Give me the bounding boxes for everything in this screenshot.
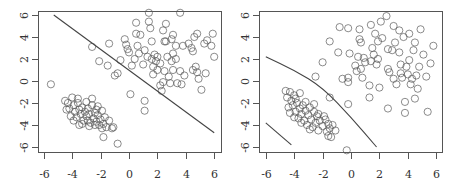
data-point (202, 70, 209, 77)
data-point (393, 81, 400, 88)
data-point (209, 30, 216, 37)
data-point (63, 106, 70, 113)
data-point (177, 9, 184, 16)
data-point (174, 80, 181, 87)
data-point (148, 38, 155, 45)
x-tick-label: -6 (261, 168, 272, 181)
data-point (401, 109, 408, 116)
data-point (359, 74, 366, 81)
decision-boundary (54, 15, 214, 133)
x-tick-label: 0 (348, 168, 355, 181)
right-scatter-plot: -6-4-20246-6-4-20246 (239, 12, 443, 182)
data-point (423, 73, 430, 80)
data-point (366, 82, 373, 89)
y-tick-label: 0 (18, 78, 31, 85)
data-point (315, 127, 322, 134)
data-point (145, 9, 152, 16)
data-point (376, 84, 383, 91)
data-point (198, 86, 205, 93)
data-point (145, 18, 152, 25)
data-point (396, 49, 403, 56)
data-point (172, 42, 179, 49)
data-point (357, 65, 364, 72)
data-point (137, 31, 144, 38)
y-tick-label: -6 (239, 142, 252, 153)
data-point (383, 13, 390, 20)
data-point (345, 79, 352, 86)
data-point (134, 42, 141, 49)
data-point (420, 51, 427, 58)
data-point (356, 26, 363, 33)
data-point (100, 134, 107, 141)
data-point (404, 71, 411, 78)
data-point (336, 24, 343, 31)
data-point (401, 98, 408, 105)
data-point (417, 26, 424, 33)
data-point (140, 61, 147, 68)
data-point (406, 30, 413, 37)
data-point (416, 63, 423, 70)
data-point (208, 42, 215, 49)
data-point (367, 21, 374, 28)
data-point (141, 97, 148, 104)
data-point (411, 95, 418, 102)
data-point (152, 58, 159, 65)
x-tick-label: -2 (96, 168, 107, 181)
y-tick-label: 2 (18, 56, 31, 63)
data-point (169, 31, 176, 38)
data-point (391, 39, 398, 46)
plot-frame (260, 12, 443, 153)
data-point (424, 108, 431, 115)
data-point (128, 62, 135, 69)
data-point (147, 25, 154, 32)
left-scatter-plot: -6-4-20246-6-4-20246 (18, 9, 222, 181)
data-point (427, 60, 434, 67)
y-tick-label: -2 (239, 98, 252, 109)
data-point (411, 39, 418, 46)
x-tick-label: -4 (67, 168, 78, 181)
y-tick-label: -4 (18, 120, 31, 131)
x-tick-label: -6 (39, 168, 50, 181)
data-point (384, 46, 391, 53)
data-point (181, 72, 188, 79)
data-point (76, 121, 83, 128)
data-point (397, 70, 404, 77)
data-point (335, 49, 342, 56)
data-point (162, 20, 169, 27)
data-point (167, 80, 174, 87)
decision-boundary-lower (266, 123, 292, 145)
chart-canvas: -6-4-20246-6-4-20246 -6-4-20246-6-4-2024… (0, 0, 453, 195)
data-point (47, 81, 54, 88)
data-point (396, 27, 403, 34)
data-point (325, 132, 332, 139)
series-cluster-A (47, 81, 121, 148)
y-tick-label: 4 (18, 34, 31, 41)
x-tick-label: 2 (154, 168, 161, 181)
data-point (346, 50, 353, 57)
data-point (211, 53, 218, 60)
x-tick-label: -2 (318, 168, 329, 181)
data-point (289, 102, 296, 109)
data-point (384, 105, 391, 112)
data-point (178, 81, 185, 88)
data-point (319, 59, 326, 66)
x-tick-label: 0 (126, 168, 133, 181)
data-point (326, 38, 333, 45)
data-point (172, 55, 179, 62)
y-tick-label: -6 (18, 142, 31, 153)
data-point (159, 27, 166, 34)
series-cluster-B (88, 9, 217, 114)
data-point (165, 73, 172, 80)
data-point (106, 40, 113, 47)
data-point (88, 95, 95, 102)
data-point (372, 30, 379, 37)
x-tick-label: 4 (183, 168, 190, 181)
data-point (345, 101, 352, 108)
data-point (141, 107, 148, 114)
x-tick-label: 6 (433, 168, 440, 181)
data-point (169, 50, 176, 57)
data-point (414, 85, 421, 92)
data-point (157, 60, 164, 67)
data-point (177, 68, 184, 75)
data-point (114, 140, 121, 147)
